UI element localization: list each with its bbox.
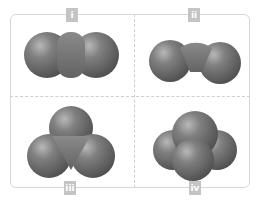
molecule-linear — [24, 32, 119, 78]
central-atom — [57, 32, 85, 78]
panel-label-i: i — [66, 8, 78, 22]
panel-label-ii: ii — [188, 8, 200, 22]
panel-label-iv: iv — [189, 181, 201, 195]
molecule-tetrahedral — [153, 111, 237, 181]
panel-label-iii: iii — [64, 181, 76, 195]
molecule-bent — [149, 40, 241, 84]
atom — [172, 139, 214, 181]
molecule-models — [0, 0, 258, 208]
molecule-trigonal-planar — [27, 106, 115, 178]
